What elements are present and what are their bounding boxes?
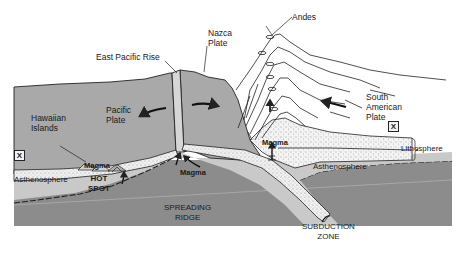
label-nazca-plate: Nazca Plate [208, 28, 232, 48]
label-asthenosphere-left: Asthenosphere [14, 175, 68, 185]
leader-andes-top [266, 26, 272, 35]
leader-andes [272, 17, 292, 35]
label-hot-spot: HOT SPOT [88, 174, 110, 194]
label-spreading-ridge: SPREADING RIDGE [164, 203, 211, 223]
label-magma-ridge: Magma [180, 168, 206, 178]
x-marker-left: X [14, 150, 25, 161]
label-south-american-plate: South American Plate [366, 92, 402, 122]
label-pacific-plate: Pacific Plate [106, 105, 131, 125]
leader-nazca [204, 46, 207, 72]
label-subduction-zone: SUBDUCTION ZONE [302, 222, 355, 242]
leader-east-pacific-rise [165, 61, 177, 73]
label-magma-hotspot: Magma [84, 161, 110, 171]
label-asthenosphere-right: Asthenosphere [313, 162, 367, 172]
label-andes: Andes [292, 12, 316, 22]
label-magma-andes: Magma [262, 138, 288, 148]
label-east-pacific-rise: East Pacific Rise [96, 52, 160, 62]
label-lithosphere: Lithosphere [401, 144, 443, 154]
x-marker-right: X [388, 121, 399, 132]
label-hawaiian-islands: Hawaiian Islands [31, 113, 66, 133]
